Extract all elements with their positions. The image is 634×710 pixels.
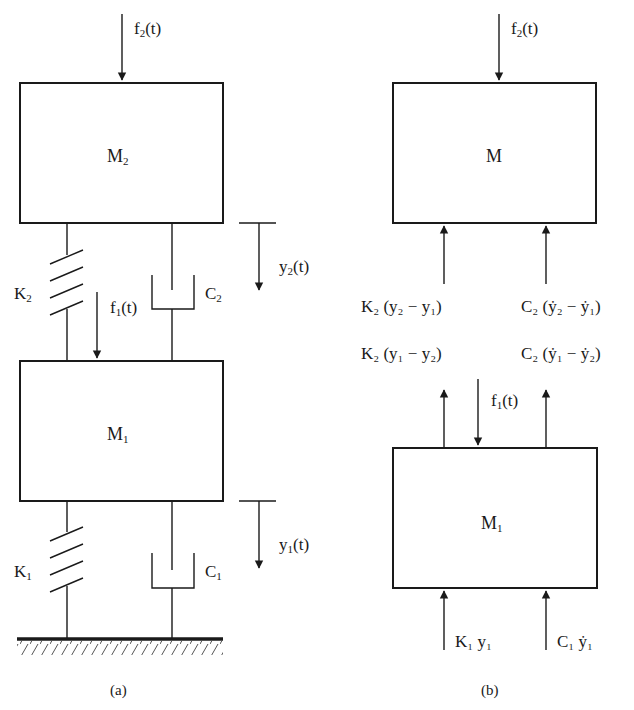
- spring-k2-label: K2: [14, 285, 32, 304]
- fb-mass-m1-label: M1: [481, 514, 503, 534]
- fb-damper-force-bottom: C₂ (ẏ₁ − ẏ₂): [521, 345, 601, 362]
- spring-k2: [50, 223, 83, 361]
- disp-y1-label: y1(t): [279, 536, 309, 555]
- fb-spring-force-top: K₂ (y₂ − y₁): [361, 298, 442, 315]
- mass-m2-label: M2: [107, 147, 129, 167]
- fb-force-f1-label: f1(t): [491, 392, 518, 411]
- spring-k1-label: K1: [14, 563, 32, 582]
- damper-c1: [152, 501, 194, 639]
- two-dof-mass-spring-damper-figure: f2(t) M2 K2 f1(t) C2 y2(t) M1 K1 C1 y1(t…: [0, 0, 634, 710]
- damper-c1-label: C1: [205, 563, 222, 582]
- disp-y2-label: y2(t): [279, 258, 309, 277]
- fb-mass-m-label: M: [486, 147, 502, 165]
- caption-a: (a): [110, 683, 127, 698]
- damper-c2: [152, 223, 194, 361]
- mass-m1-label: M1: [107, 425, 129, 445]
- spring-k1: [50, 501, 83, 639]
- fb-force-f2-label: f2(t): [511, 20, 538, 39]
- fb-ground-spring-force: K₁ y₁: [455, 633, 492, 650]
- caption-b: (b): [481, 683, 499, 698]
- damper-c2-label: C2: [205, 285, 222, 304]
- fb-ground-damper-force: C₁ ẏ₁: [557, 633, 593, 650]
- force-f1-label: f1(t): [110, 299, 137, 318]
- fb-spring-force-bottom: K₂ (y₁ − y₂): [361, 345, 442, 362]
- force-f2-label: f2(t): [134, 20, 161, 39]
- fb-damper-force-top: C₂ (ẏ₂ − ẏ₁): [521, 298, 601, 315]
